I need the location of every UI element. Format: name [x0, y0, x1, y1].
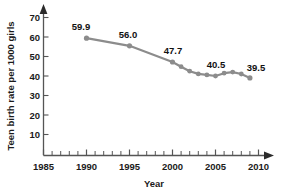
y-axis-title: Teen birth rate per 1000 girls [5, 21, 16, 150]
data-label-1990: 59.9 [72, 21, 91, 32]
x-axis-title: Year [144, 178, 164, 189]
data-point [205, 73, 210, 78]
data-label-2000: 47.7 [164, 45, 183, 56]
x-tick-2000: 2000 [162, 161, 183, 172]
y-tick-70: 70 [29, 12, 40, 23]
data-point [247, 75, 252, 80]
data-point [213, 74, 218, 79]
data-point [179, 64, 184, 69]
y-tick-40: 40 [29, 71, 40, 82]
data-point [170, 59, 175, 64]
x-axis-tick-labels: 1985 1990 1995 2000 2005 2010 [33, 161, 269, 172]
y-axis-tick-labels: 70 60 50 40 30 20 10 [29, 12, 40, 140]
data-point [222, 71, 227, 76]
data-point [196, 72, 201, 77]
y-tick-20: 20 [29, 110, 40, 121]
data-point [187, 69, 192, 74]
x-tick-1985: 1985 [33, 161, 55, 172]
data-point [84, 36, 89, 41]
x-tick-2010: 2010 [248, 161, 269, 172]
y-tick-10: 10 [29, 129, 40, 140]
data-labels: 59.9 56.0 47.7 40.5 39.5 [72, 21, 266, 73]
y-tick-60: 60 [29, 32, 40, 43]
y-axis-ticks [44, 18, 49, 135]
data-label-1995: 56.0 [119, 29, 138, 40]
y-axis [40, 4, 48, 155]
line-chart: 70 60 50 40 30 20 10 [0, 0, 281, 191]
data-label-2005: 40.5 [207, 59, 226, 70]
data-point [230, 70, 235, 75]
x-axis-minor-ticks [52, 151, 250, 156]
data-label-2009: 39.5 [247, 62, 266, 73]
y-tick-50: 50 [29, 51, 40, 62]
y-tick-30: 30 [29, 90, 40, 101]
x-tick-2005: 2005 [205, 161, 227, 172]
chart-container: 70 60 50 40 30 20 10 [0, 0, 281, 191]
data-point [127, 43, 132, 48]
data-point [239, 72, 244, 77]
x-axis-major-ticks [44, 150, 259, 156]
x-tick-1990: 1990 [76, 161, 97, 172]
x-tick-1995: 1995 [119, 161, 141, 172]
